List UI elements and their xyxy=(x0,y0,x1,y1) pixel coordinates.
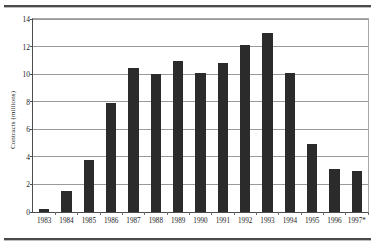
bottom-divider-rule xyxy=(4,238,371,241)
bar-1992 xyxy=(240,45,250,212)
bar-1987 xyxy=(128,68,138,212)
y-tick-label: 2 xyxy=(26,180,30,189)
x-tick-mark xyxy=(144,212,145,215)
x-tick-label: 1985 xyxy=(82,217,96,225)
y-tick-label: 12 xyxy=(23,42,31,51)
bar-1985 xyxy=(84,160,94,212)
x-tick-mark xyxy=(234,212,235,215)
x-tick-label: 1994 xyxy=(283,217,297,225)
x-tick-label: 1989 xyxy=(171,217,185,225)
x-tick-label: 1992 xyxy=(238,217,252,225)
y-tick-label: 14 xyxy=(23,15,31,24)
bar-1993 xyxy=(262,33,272,212)
bar-1988 xyxy=(151,74,161,212)
chart-page: Contracts (millions) 0246810121419831984… xyxy=(0,0,375,245)
y-gridline xyxy=(33,19,368,20)
x-tick-label: 1987 xyxy=(126,217,140,225)
x-tick-label: 1996 xyxy=(327,217,341,225)
x-tick-label: 1997* xyxy=(348,217,366,225)
bar-1994 xyxy=(285,73,295,212)
bar-chart-figure: Contracts (millions) 0246810121419831984… xyxy=(0,10,375,235)
top-divider-rule xyxy=(4,5,371,8)
y-tick-label: 8 xyxy=(26,97,30,106)
x-tick-mark xyxy=(211,212,212,215)
y-tick-mark xyxy=(30,129,33,130)
x-tick-label: 1990 xyxy=(193,217,207,225)
y-tick-label: 6 xyxy=(26,125,30,134)
x-tick-mark xyxy=(77,212,78,215)
y-axis-title: Contracts (millions) xyxy=(9,60,17,180)
y-tick-label: 4 xyxy=(26,152,30,161)
x-tick-label: 1995 xyxy=(305,217,319,225)
x-tick-label: 1988 xyxy=(149,217,163,225)
x-tick-mark xyxy=(278,212,279,215)
y-gridline xyxy=(33,46,368,47)
y-tick-label: 0 xyxy=(26,208,30,217)
bar-1995 xyxy=(307,144,317,212)
x-tick-mark xyxy=(122,212,123,215)
x-tick-mark xyxy=(301,212,302,215)
y-tick-mark xyxy=(30,184,33,185)
x-tick-mark xyxy=(189,212,190,215)
x-tick-mark xyxy=(55,212,56,215)
x-tick-label: 1986 xyxy=(104,217,118,225)
x-tick-mark xyxy=(368,212,369,215)
bar-1990 xyxy=(195,73,205,212)
x-tick-mark xyxy=(345,212,346,215)
bar-1983 xyxy=(39,209,49,212)
x-tick-mark xyxy=(167,212,168,215)
y-tick-mark xyxy=(30,101,33,102)
bar-1989 xyxy=(173,61,183,212)
x-tick-label: 1983 xyxy=(37,217,51,225)
x-tick-label: 1993 xyxy=(260,217,274,225)
plot-area: 0246810121419831984198519861987198819891… xyxy=(32,18,369,213)
bar-1986 xyxy=(106,103,116,212)
x-tick-mark xyxy=(256,212,257,215)
y-tick-mark xyxy=(30,212,33,213)
bar-1997star xyxy=(352,171,362,212)
y-tick-mark xyxy=(30,156,33,157)
x-tick-mark xyxy=(100,212,101,215)
x-tick-label: 1991 xyxy=(216,217,230,225)
y-tick-label: 10 xyxy=(23,70,31,79)
x-tick-mark xyxy=(323,212,324,215)
bar-1984 xyxy=(61,191,71,212)
x-tick-label: 1984 xyxy=(59,217,73,225)
bar-1996 xyxy=(329,169,339,212)
bar-1991 xyxy=(218,63,228,212)
